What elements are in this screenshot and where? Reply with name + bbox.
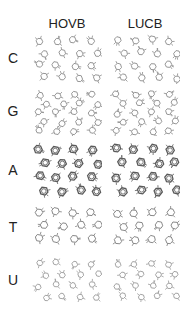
row-label-u: U <box>6 272 20 288</box>
packing-panel-t-lucb <box>110 206 180 246</box>
row-label-g: G <box>6 103 20 119</box>
row-label-a: A <box>6 162 20 178</box>
column-header-lucb: LUCB <box>110 16 180 31</box>
packing-panel-g-lucb <box>110 90 180 136</box>
packing-panel-c-hovb <box>32 34 102 84</box>
packing-panel-u-lucb <box>110 258 180 302</box>
packing-panel-a-lucb <box>110 142 180 198</box>
row-label-c: C <box>6 50 20 66</box>
packing-panel-c-lucb <box>110 34 180 84</box>
packing-panel-g-hovb <box>32 90 102 136</box>
column-header-hovb: HOVB <box>32 16 102 31</box>
packing-panel-u-hovb <box>32 258 102 302</box>
row-label-t: T <box>6 219 20 235</box>
packing-panel-t-hovb <box>32 206 102 246</box>
packing-panel-a-hovb <box>32 142 102 198</box>
